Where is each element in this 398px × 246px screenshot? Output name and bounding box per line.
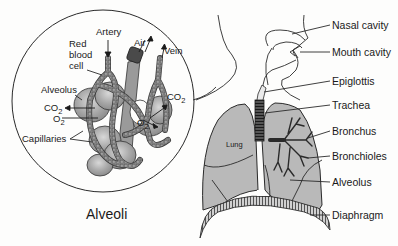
trachea <box>255 100 264 141</box>
label-diaphragm: Diaphragm <box>332 209 384 221</box>
mediastinum <box>257 190 265 196</box>
label-trachea: Trachea <box>332 99 370 111</box>
label-mouth-cavity: Mouth cavity <box>332 46 392 58</box>
label-bronchus: Bronchus <box>332 125 376 137</box>
label-red-blood-cell-line2: blood <box>69 49 92 60</box>
label-red-blood-cell-line1: Red <box>69 38 86 49</box>
alveoli-inset: Artery Red blood cell Air Vein Alveolus … <box>12 10 216 222</box>
label-artery: Artery <box>96 26 122 37</box>
label-red-blood-cell-line3: cell <box>69 60 83 71</box>
label-vein: Vein <box>164 45 183 56</box>
label-alveolus-main: Alveolus <box>332 176 372 188</box>
label-nasal-cavity: Nasal cavity <box>332 19 389 31</box>
label-lung: Lung <box>226 140 243 149</box>
inset-connector-line <box>193 87 216 100</box>
label-alveolus-inset: Alveolus <box>41 84 77 95</box>
respiratory-system-diagram: Artery Red blood cell Air Vein Alveolus … <box>0 0 398 246</box>
label-bronchioles: Bronchioles <box>332 150 387 162</box>
label-capillaries: Capillaries <box>22 133 67 144</box>
nasal-passage <box>266 30 305 85</box>
inset-title: Alveoli <box>86 206 127 222</box>
label-air: Air <box>134 37 146 48</box>
epiglottis <box>257 85 266 100</box>
respiratory-system: Lung Nasal cavity Mouth cavity Epiglotti… <box>196 15 392 238</box>
label-epiglottis: Epiglottis <box>332 75 375 87</box>
